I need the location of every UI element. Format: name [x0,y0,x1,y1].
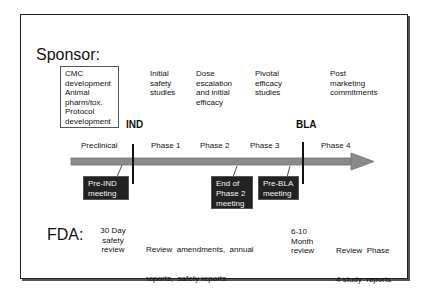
note-line: 4 study reports [336,275,391,285]
pre-ind-meeting: Pre-IND meeting [83,176,129,200]
meeting-line: meeting [88,189,124,199]
note-line: review [291,246,314,256]
meeting-line: Phase 2 [216,189,248,199]
note-line: Review Phase [336,246,391,256]
meeting-line: Pre-IND [88,179,124,189]
note-line: Review amendments, annual [146,245,254,255]
note-line: Month [291,237,314,247]
meeting-line: End of [216,179,248,189]
fda-label: FDA: [47,226,83,244]
note-line: review [96,245,130,255]
note-line: safety [96,236,130,246]
meeting-line: Pre-BLA [263,179,294,189]
pre-bla-meeting: Pre-BLA meeting [258,176,299,200]
meeting-line: meeting [216,199,248,209]
note-line: 30 Day [96,226,130,236]
meeting-line: meeting [263,189,294,199]
fda-bla-review-note: 6-10 Month review [291,227,314,256]
fda-phase4-review-note: Review Phase 4 study reports [336,227,391,294]
end-of-phase2-meeting: End of Phase 2 meeting [211,176,253,209]
note-line: reports, safety reports [146,274,254,284]
fda-ongoing-review-note: Review amendments, annual reports, safet… [146,226,254,293]
note-line: 6-10 [291,227,314,237]
fda-ind-review-note: 30 Day safety review [96,226,130,255]
